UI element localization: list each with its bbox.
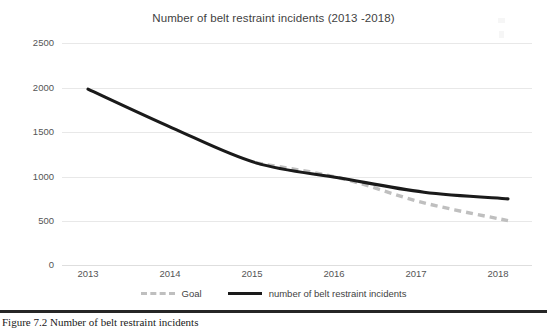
chart-title: Number of belt restraint incidents (2013… [0,12,547,24]
x-tick-label: 2017 [386,268,446,279]
x-tick-label: 2018 [468,268,528,279]
scan-artifact-top [498,18,505,23]
x-axis-tick-labels: 2013 2014 2015 2016 2017 2018 [0,268,547,286]
x-tick-label: 2014 [140,268,200,279]
scan-artifact-mid [499,31,504,38]
y-tick-label: 2500 [2,37,54,48]
series-svg [62,38,532,270]
legend-label: number of belt restraint incidents [269,288,407,299]
y-tick-label: 2000 [2,82,54,93]
x-tick-label: 2015 [222,268,282,279]
y-tick-label: 1000 [2,171,54,182]
caption-divider [0,310,547,313]
x-tick-label: 2013 [58,268,118,279]
legend-item-goal: Goal [141,288,202,299]
x-tick-label: 2016 [304,268,364,279]
legend-dashed-line-icon [141,292,175,295]
series-line-incidents [88,89,508,199]
chart-figure: Number of belt restraint incidents (2013… [0,0,547,328]
legend-label: Goal [182,288,202,299]
y-tick-label: 1500 [2,126,54,137]
plot-area [62,38,532,270]
legend-solid-line-icon [228,292,262,295]
legend-item-incidents: number of belt restraint incidents [228,288,407,299]
chart-legend: Goal number of belt restraint incidents [0,288,547,299]
chart-card: Number of belt restraint incidents (2013… [0,0,547,305]
figure-caption: Figure 7.2 Number of belt restraint inci… [2,316,547,328]
y-tick-label: 500 [2,215,54,226]
